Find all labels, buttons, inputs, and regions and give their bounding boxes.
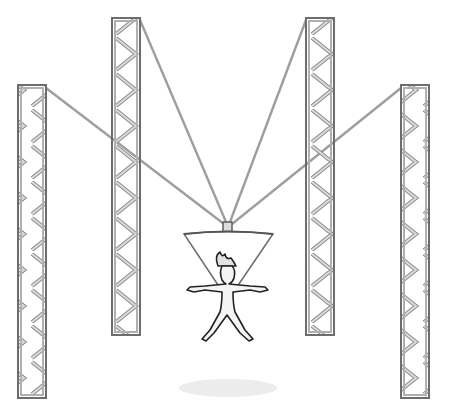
truss-right-inner (306, 18, 334, 335)
cable-right-inner (230, 20, 306, 222)
cables (46, 20, 401, 224)
scene-canvas (0, 0, 450, 419)
truss-left-outer (18, 85, 46, 398)
truss-right-outer (401, 85, 429, 398)
ground-shadow (179, 379, 277, 397)
human-figure (187, 252, 268, 341)
truss-left-inner (112, 18, 140, 335)
